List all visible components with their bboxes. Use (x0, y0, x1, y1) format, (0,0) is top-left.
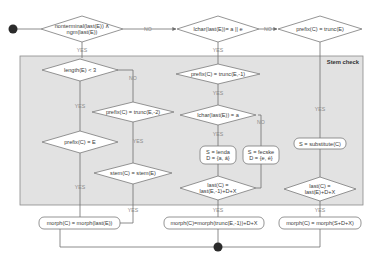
svg-text:ngm(last(E)): ngm(last(E)) (67, 29, 98, 35)
action-lenda: S = lenda D = {a, á} (200, 146, 236, 164)
svg-text:YES: YES (315, 106, 326, 112)
svg-text:S = fecske: S = fecske (248, 149, 274, 155)
svg-text:YES: YES (213, 90, 224, 96)
svg-text:YES: YES (128, 207, 139, 213)
decision-nonterminal: nonterminal(last(E)) ∧ ngm(last(E)) (41, 16, 123, 42)
svg-text:YES: YES (77, 47, 88, 53)
svg-text:stem(C) = stem(E): stem(C) = stem(E) (110, 170, 156, 176)
svg-text:D = {e, é}: D = {e, é} (249, 155, 273, 161)
decision-prefix-trunc: prefix(C) = trunc(E) (278, 16, 362, 42)
svg-text:lchar(last(E)) = a: lchar(last(E)) = a (197, 112, 239, 118)
svg-text:morph(C) = morph(last(E)): morph(C) = morph(last(E)) (47, 220, 113, 226)
svg-text:length(E) < 3: length(E) < 3 (64, 67, 96, 73)
svg-text:last(C) =: last(C) = (309, 183, 330, 189)
svg-text:NO: NO (129, 75, 137, 81)
result-morph-last: morph(C) = morph(last(E)) (39, 217, 120, 229)
svg-text:D = {a, á}: D = {a, á} (206, 155, 230, 161)
svg-text:prefix(C) = trunc(E,-1): prefix(C) = trunc(E,-1) (191, 71, 245, 77)
svg-text:YES: YES (213, 131, 224, 137)
svg-text:YES: YES (213, 47, 224, 53)
svg-text:YES: YES (133, 138, 144, 144)
svg-text:last(E,-1)+D+X: last(E,-1)+D+X (200, 188, 237, 194)
svg-text:YES: YES (213, 207, 224, 213)
action-substitute: S = substitute(C) (294, 138, 346, 149)
flowchart-canvas: Stem check (0, 0, 381, 271)
svg-text:nonterminal(last(E)) ∧: nonterminal(last(E)) ∧ (55, 23, 110, 29)
action-fecske: S = fecske D = {e, é} (243, 146, 279, 164)
start-node (9, 25, 18, 34)
end-node (214, 243, 223, 252)
svg-text:prefix(C) = trunc(E): prefix(C) = trunc(E) (296, 26, 344, 32)
svg-text:last(E)+D+X: last(E)+D+X (305, 189, 336, 195)
svg-text:morph(C)=morph(trunc(E,-1))+D+: morph(C)=morph(trunc(E,-1))+D+X (170, 220, 257, 226)
svg-text:S = substitute(C): S = substitute(C) (299, 141, 341, 147)
svg-text:prefix(C) = E: prefix(C) = E (64, 139, 96, 145)
svg-text:NO: NO (144, 26, 152, 32)
decision-lchar-a-or-e: lchar(last(E))= a || e (177, 16, 259, 42)
svg-text:YES: YES (75, 184, 86, 190)
svg-text:YES: YES (315, 207, 326, 213)
stem-check-title: Stem check (327, 59, 360, 65)
svg-text:YES: YES (75, 103, 86, 109)
result-morph-sub: morph(C) = morph(S+D+X) (279, 217, 361, 229)
svg-text:NO: NO (257, 119, 265, 125)
svg-text:S = lenda: S = lenda (206, 149, 231, 155)
svg-text:morph(C) = morph(S+D+X): morph(C) = morph(S+D+X) (286, 220, 354, 226)
svg-text:last(C) =: last(C) = (207, 182, 228, 188)
result-morph-trunc: morph(C)=morph(trunc(E,-1))+D+X (164, 217, 264, 229)
svg-text:NO: NO (264, 26, 272, 32)
svg-text:prefix(C) = trunc(E,-2): prefix(C) = trunc(E,-2) (106, 109, 160, 115)
svg-text:lchar(last(E))= a || e: lchar(last(E))= a || e (193, 26, 242, 32)
